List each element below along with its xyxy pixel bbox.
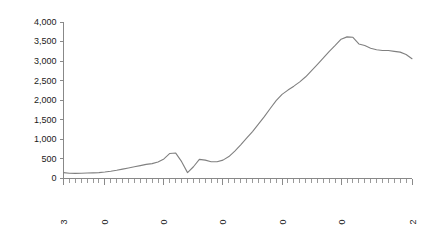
y-tick-label-2000: 2,000 [34, 95, 57, 105]
x-tick-label-1980: 1980 [218, 220, 228, 226]
y-tick-label-3500: 3,500 [34, 36, 57, 46]
x-axis-label-group: 1953196019701980199020002012 [59, 220, 418, 226]
y-tick-label-1500: 1,500 [34, 115, 57, 125]
y-tick-label-1000: 1,000 [34, 134, 57, 144]
y-tick-label-500: 500 [41, 154, 56, 164]
y-tick-label-3000: 3,000 [34, 56, 57, 66]
y-axis-tick-group [60, 22, 64, 179]
data-series-line [64, 37, 413, 174]
x-axis-tick-group [64, 179, 413, 185]
y-axis-label-group: 05001,0001,5002,0002,5003,0003,5004,000 [34, 17, 57, 184]
y-tick-label-2500: 2,500 [34, 76, 57, 86]
y-tick-label-0: 0 [51, 173, 56, 183]
x-tick-label-2012: 2012 [408, 220, 418, 226]
x-tick-label-1970: 1970 [159, 220, 169, 226]
x-tick-label-1960: 1960 [100, 220, 110, 226]
chart-container: 05001,0001,5002,0002,5003,0003,5004,000 … [0, 0, 443, 225]
y-tick-label-4000: 4,000 [34, 17, 57, 27]
x-tick-label-1990: 1990 [278, 220, 288, 226]
x-tick-label-1953: 1953 [59, 220, 69, 226]
x-tick-label-2000: 2000 [337, 220, 347, 226]
line-chart: 05001,0001,5002,0002,5003,0003,5004,000 … [0, 0, 443, 225]
